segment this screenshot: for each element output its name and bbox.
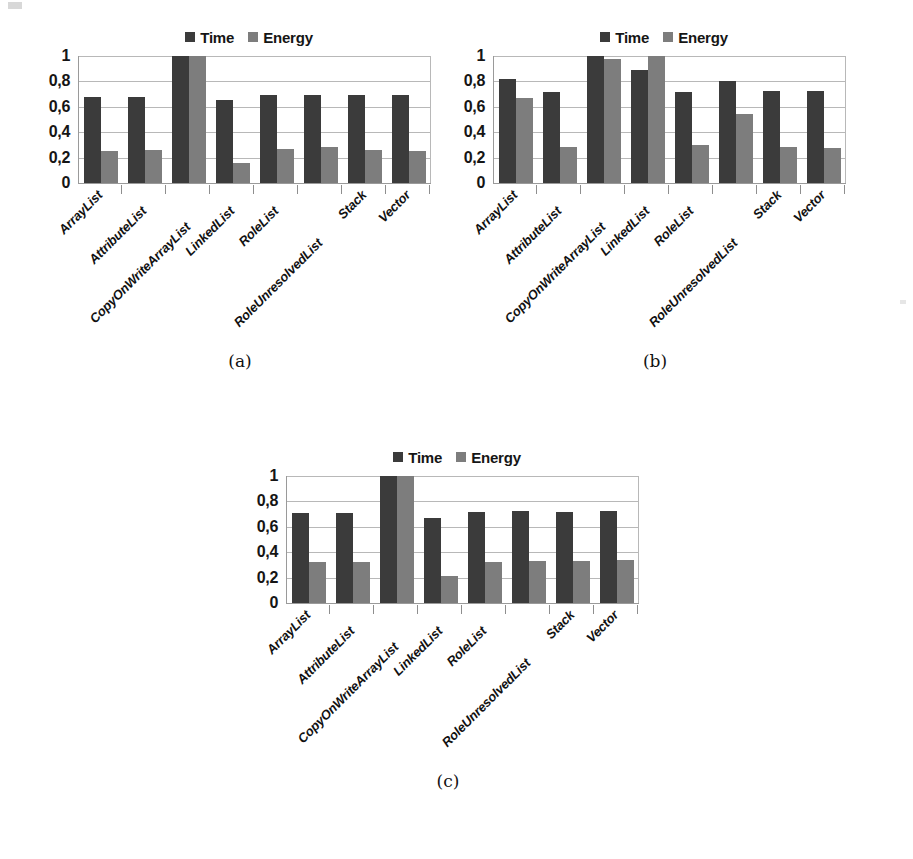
y-axis-tick-label: 0,8 <box>464 72 485 90</box>
bar-energy <box>485 562 502 603</box>
y-axis-tick-label: 0,4 <box>257 543 278 561</box>
bar-energy <box>189 56 206 183</box>
bar-energy <box>409 151 426 183</box>
legend-label: Energy <box>471 449 521 466</box>
bar-time <box>499 79 516 183</box>
x-axis-tick <box>462 605 506 614</box>
bar-energy <box>233 163 250 183</box>
y-axis-tick-label: 1 <box>269 467 278 485</box>
y-axis-tick-label: 1 <box>61 47 70 65</box>
bar-energy <box>353 562 370 603</box>
legend-a: TimeEnergy <box>58 26 440 48</box>
caption-b: (b) <box>595 351 715 371</box>
bar-time <box>631 70 648 183</box>
y-axis-tick-label: 0,2 <box>257 569 278 587</box>
bar-energy <box>529 561 546 603</box>
legend-entry-time: Time <box>185 29 234 46</box>
bars-layer <box>79 56 431 183</box>
legend-swatch-icon <box>248 32 258 42</box>
x-axis-tick <box>625 185 669 194</box>
x-axis-tick <box>298 185 342 194</box>
y-axis-tick-label: 0,4 <box>464 123 485 141</box>
bar-group <box>463 476 507 603</box>
bar-time <box>380 476 397 603</box>
bar-time <box>292 513 309 603</box>
bar-time <box>424 518 441 603</box>
bar-time <box>172 56 189 183</box>
x-axis-tick <box>506 605 550 614</box>
bar-energy <box>617 560 634 603</box>
bar-group <box>387 56 431 183</box>
legend-label: Energy <box>678 29 728 46</box>
bar-energy <box>692 145 709 183</box>
bars-layer <box>494 56 846 183</box>
x-axis-tick <box>210 185 254 194</box>
bar-group <box>123 56 167 183</box>
bar-group <box>538 56 582 183</box>
bar-group <box>758 56 802 183</box>
y-axis-tick-label: 0,6 <box>464 98 485 116</box>
bar-time <box>260 95 277 183</box>
bar-group <box>375 476 419 603</box>
bar-energy <box>309 562 326 603</box>
bar-group <box>582 56 626 183</box>
legend-label: Time <box>615 29 649 46</box>
bar-group <box>79 56 123 183</box>
bar-energy <box>145 150 162 183</box>
bar-time <box>84 97 101 183</box>
caption-a: (a) <box>180 351 300 371</box>
bar-time <box>600 511 617 603</box>
y-axis-tick-label: 1 <box>476 47 485 65</box>
bar-energy <box>573 561 590 603</box>
y-axis-tick-label: 0 <box>269 594 278 612</box>
legend-entry-energy: Energy <box>248 29 313 46</box>
bar-energy <box>277 149 294 183</box>
x-axis-tick <box>581 185 625 194</box>
bar-group <box>802 56 846 183</box>
x-axis-tick <box>254 185 298 194</box>
y-axis-tick-label: 0,6 <box>49 98 70 116</box>
plot-a: 10,80,60,40,20ArrayListAttributeListCopy… <box>40 48 440 348</box>
bar-group <box>419 476 463 603</box>
x-axis-tick <box>374 605 418 614</box>
subfigure-b: TimeEnergy 10,80,60,40,20ArrayListAttrib… <box>455 26 855 348</box>
y-axis-tick-label: 0,2 <box>49 149 70 167</box>
bar-time <box>763 91 780 183</box>
y-axis-tick-label: 0,8 <box>257 492 278 510</box>
bar-time <box>675 92 692 183</box>
bars-layer <box>287 476 639 603</box>
subfigure-a: TimeEnergy 10,80,60,40,20ArrayListAttrib… <box>40 26 440 348</box>
bar-energy <box>397 476 414 603</box>
y-axis-tick-label: 0,6 <box>257 518 278 536</box>
tick-mark <box>637 605 638 614</box>
legend-label: Time <box>200 29 234 46</box>
subfigure-c: TimeEnergy 10,80,60,40,20ArrayListAttrib… <box>248 446 648 768</box>
bar-group <box>670 56 714 183</box>
bar-time <box>807 91 824 183</box>
legend-swatch-icon <box>456 452 466 462</box>
bar-energy <box>780 147 797 183</box>
x-axis-ticks <box>78 185 430 194</box>
legend-swatch-icon <box>663 32 673 42</box>
bar-energy <box>441 576 458 603</box>
bar-energy <box>824 148 841 183</box>
bar-energy <box>321 147 338 183</box>
bar-time <box>348 95 365 183</box>
x-axis-tick <box>537 185 581 194</box>
legend-c: TimeEnergy <box>266 446 648 468</box>
x-axis-tick <box>669 185 713 194</box>
plot-area <box>78 56 431 184</box>
bar-time <box>543 92 560 183</box>
bar-group <box>626 56 670 183</box>
legend-label: Energy <box>263 29 313 46</box>
bar-group <box>494 56 538 183</box>
legend-entry-energy: Energy <box>663 29 728 46</box>
scan-speck <box>900 300 906 304</box>
y-axis-tick-label: 0 <box>476 174 485 192</box>
bar-group <box>211 56 255 183</box>
y-axis-tick-label: 0,4 <box>49 123 70 141</box>
x-axis-tick <box>166 185 210 194</box>
x-axis-ticks <box>286 605 638 614</box>
bar-time <box>392 95 409 183</box>
bar-group <box>551 476 595 603</box>
